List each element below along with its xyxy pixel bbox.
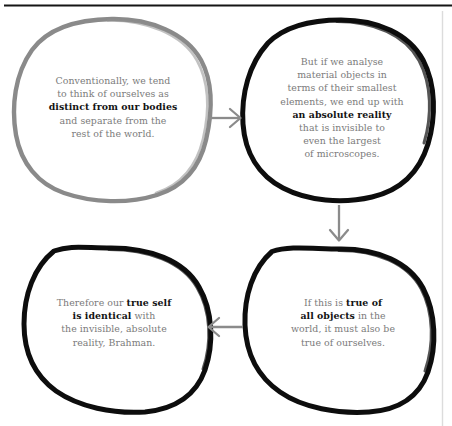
node-text-line: rest of the world.	[26, 127, 200, 140]
body-text: to think of ourselves as	[57, 88, 169, 99]
body-text: But if we analyse	[301, 56, 383, 67]
node-text-line: world, it must also be	[254, 322, 432, 335]
node-text-line: If this is true of	[254, 296, 432, 309]
node-2-text: But if we analysematerial objects interm…	[252, 55, 432, 161]
body-text: elements, we end up with	[280, 96, 403, 107]
node-text-line: even the largest	[252, 134, 432, 147]
body-text: of microscopes.	[304, 148, 379, 159]
node-text-line: But if we analyse	[252, 55, 432, 68]
node-text-line: is identical with	[28, 309, 200, 322]
emphasis-text: all objects	[300, 310, 355, 321]
body-text: the invisible, absolute	[61, 323, 167, 334]
body-text: and separate from the	[60, 115, 167, 126]
body-text: terms of their smallest	[288, 82, 397, 93]
body-text: rest of the world.	[71, 128, 154, 139]
node-text-line: to think of ourselves as	[26, 87, 200, 100]
node-4-text: Therefore our true selfis identical with…	[28, 296, 200, 349]
emphasis-text: true of	[346, 297, 382, 308]
node-text-line: and separate from the	[26, 114, 200, 127]
node-text-line: that is invisible to	[252, 121, 432, 134]
body-text: If this is	[304, 297, 346, 308]
body-text: world, it must also be	[291, 323, 395, 334]
body-text: true of ourselves.	[301, 337, 385, 348]
arrow-3-node3-to-node4	[209, 318, 244, 336]
emphasis-text: an absolute reality	[292, 109, 391, 120]
node-text-line: an absolute reality	[252, 108, 432, 121]
node-text-line: all objects in the	[254, 309, 432, 322]
body-text: even the largest	[303, 135, 381, 146]
body-text: in the	[355, 310, 386, 321]
node-text-line: reality, Brahman.	[28, 336, 200, 349]
body-text: with	[131, 310, 155, 321]
arrow-1-node1-to-node2	[208, 109, 241, 127]
body-text: material objects in	[297, 69, 387, 80]
node-text-line: Therefore our true self	[28, 296, 200, 309]
node-text-line: distinct from our bodies	[26, 100, 200, 113]
arrow-2-node2-to-node3	[330, 205, 348, 241]
node-text-line: of microscopes.	[252, 147, 432, 160]
body-text: Therefore our	[57, 297, 127, 308]
emphasis-text: distinct from our bodies	[49, 101, 177, 112]
body-text: that is invisible to	[299, 122, 385, 133]
emphasis-text: is identical	[73, 310, 132, 321]
node-text-line: Conventionally, we tend	[26, 74, 200, 87]
diagram-canvas: Conventionally, we tendto think of ourse…	[0, 0, 452, 426]
node-text-line: terms of their smallest	[252, 81, 432, 94]
node-3-text: If this is true ofall objects in theworl…	[254, 296, 432, 349]
node-text-line: true of ourselves.	[254, 336, 432, 349]
node-text-line: elements, we end up with	[252, 95, 432, 108]
node-text-line: material objects in	[252, 68, 432, 81]
body-text: reality, Brahman.	[73, 337, 156, 348]
node-text-line: the invisible, absolute	[28, 322, 200, 335]
node-1-text: Conventionally, we tendto think of ourse…	[26, 74, 200, 140]
emphasis-text: true self	[127, 297, 172, 308]
body-text: Conventionally, we tend	[56, 75, 171, 86]
